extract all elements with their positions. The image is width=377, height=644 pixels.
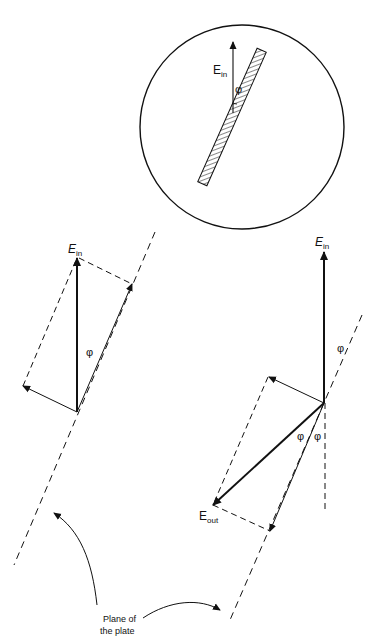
callout-label-line1: Plane of	[103, 614, 137, 624]
right-phi-label-left: φ	[297, 430, 304, 442]
wave-plate	[198, 48, 267, 185]
left-phi-label: φ	[86, 346, 93, 358]
right-eout-label: Eout	[199, 509, 219, 525]
right-construction-left	[213, 377, 268, 505]
plate-plane-callout: Plane of the plate	[54, 513, 220, 636]
left-plate-plane	[14, 232, 155, 565]
left-construction-top	[79, 258, 132, 284]
right-eout-vector	[213, 403, 324, 505]
inset-view: Ein φ	[140, 25, 344, 229]
left-panel: Ein φ	[14, 232, 155, 565]
right-ein-label: Ein	[315, 235, 329, 251]
right-panel: Ein Eout φ φ φ	[199, 235, 362, 620]
inset-circle	[140, 25, 344, 229]
left-construction-side	[23, 258, 77, 386]
right-parallel-component	[270, 403, 324, 531]
left-ein-label: Ein	[68, 242, 82, 258]
right-plate-plane	[230, 315, 362, 620]
right-perpendicular-component	[269, 377, 324, 403]
right-phi-label-right: φ	[314, 430, 321, 442]
inset-phi-label: φ	[235, 83, 242, 95]
callout-pointer-right	[143, 602, 220, 618]
right-phi-label-top: φ	[337, 342, 344, 354]
callout-label-line2: the plate	[100, 626, 135, 636]
inset-ein-label: Ein	[213, 63, 227, 79]
callout-pointer-left	[54, 513, 97, 605]
wave-plate-diagram: Ein φ Ein φ Ein Eout φ	[0, 0, 377, 644]
right-construction-bottom	[213, 505, 270, 531]
left-perpendicular-component	[23, 386, 77, 412]
